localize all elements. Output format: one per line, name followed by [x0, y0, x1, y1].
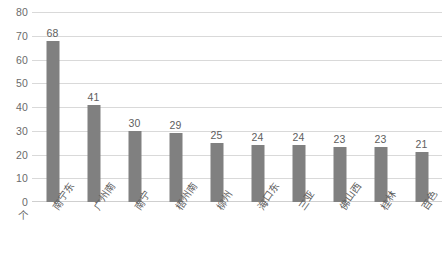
bar-slot: 23 — [360, 12, 401, 202]
bar-slot: 25 — [196, 12, 237, 202]
y-axis-unit-label: 个 — [18, 210, 28, 221]
bar-slot: 41 — [73, 12, 114, 202]
bars-layer: 68 41 30 29 25 24 — [32, 12, 442, 202]
x-label-slot: 佛山西 — [319, 202, 360, 268]
y-tick-label: 30 — [16, 126, 28, 137]
y-tick-label: 70 — [16, 31, 28, 42]
bar[interactable] — [46, 41, 59, 203]
x-label-slot: 桂林 — [360, 202, 401, 268]
bar-slot: 23 — [319, 12, 360, 202]
x-label-slot: 梧州南 — [155, 202, 196, 268]
bar[interactable] — [210, 143, 223, 202]
bar[interactable] — [87, 105, 100, 202]
bar-value-label: 29 — [169, 120, 181, 131]
x-label-slot: 南宁 — [114, 202, 155, 268]
x-label-slot: 海口东 — [237, 202, 278, 268]
bar-value-label: 41 — [87, 92, 99, 103]
x-label-slot: 三亚 — [278, 202, 319, 268]
y-axis: 80 70 60 50 40 30 20 10 0 个 — [0, 0, 32, 268]
bar-value-label: 24 — [292, 132, 304, 143]
bar-slot: 29 — [155, 12, 196, 202]
bar-slot: 24 — [278, 12, 319, 202]
bar[interactable] — [128, 131, 141, 202]
x-label-slot: 柳州 — [196, 202, 237, 268]
y-tick-label: 80 — [16, 7, 28, 18]
bar-value-label: 23 — [333, 134, 345, 145]
bar-slot: 24 — [237, 12, 278, 202]
y-tick-label: 10 — [16, 173, 28, 184]
y-tick-label: 40 — [16, 102, 28, 113]
bar-slot: 68 — [32, 12, 73, 202]
y-tick-label: 60 — [16, 54, 28, 65]
x-label-slot: 百色 — [401, 202, 442, 268]
bar-slot: 21 — [401, 12, 442, 202]
bar-slot: 30 — [114, 12, 155, 202]
bar-chart: 80 70 60 50 40 30 20 10 0 个 68 41 — [0, 0, 446, 268]
bar-value-label: 68 — [46, 28, 58, 39]
bar-value-label: 23 — [374, 134, 386, 145]
x-label-slot: 广州南 — [73, 202, 114, 268]
y-tick-label: 0 — [22, 197, 28, 208]
bar-value-label: 30 — [128, 118, 140, 129]
y-tick-label: 50 — [16, 78, 28, 89]
x-axis: 南宁东 广州南 南宁 梧州南 柳州 海口东 三亚 佛山西 桂林 百色 — [32, 202, 442, 268]
x-label-slot: 南宁东 — [32, 202, 73, 268]
bar-value-label: 21 — [415, 139, 427, 150]
bar[interactable] — [169, 133, 182, 202]
bar-value-label: 24 — [251, 132, 263, 143]
plot-area: 68 41 30 29 25 24 — [32, 12, 442, 202]
y-tick-label: 20 — [16, 149, 28, 160]
bar-value-label: 25 — [210, 130, 222, 141]
